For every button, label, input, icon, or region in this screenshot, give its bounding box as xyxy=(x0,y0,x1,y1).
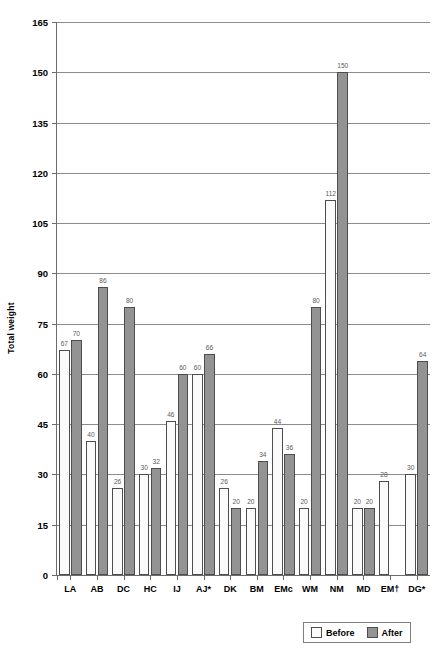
bar-value-label: 32 xyxy=(153,458,160,465)
bar-group: 28 xyxy=(377,22,404,575)
bar-group: 3064 xyxy=(403,22,430,575)
bar-value-label: 20 xyxy=(366,498,373,505)
legend-swatch-after-icon xyxy=(367,627,378,638)
y-tick-label: 105 xyxy=(32,218,48,229)
legend-item-before: Before xyxy=(311,627,355,638)
bar-after: 60 xyxy=(178,374,189,575)
x-tick-label: NM xyxy=(330,584,344,594)
bar-value-label: 150 xyxy=(337,62,348,69)
legend-label-before: Before xyxy=(326,628,355,638)
x-tick-label: BM xyxy=(250,584,264,594)
bar-after: 66 xyxy=(204,354,215,575)
bar-before: 30 xyxy=(139,474,150,575)
x-tick-label: AJ* xyxy=(196,584,211,594)
bar-group: 4660 xyxy=(164,22,191,575)
x-tick xyxy=(150,575,151,580)
x-tick xyxy=(283,575,284,580)
bar-value-label: 26 xyxy=(220,478,227,485)
x-tick-label: WM xyxy=(302,584,318,594)
bar-group: 2680 xyxy=(110,22,137,575)
bar-value-label: 20 xyxy=(247,498,254,505)
x-tick-label: MD xyxy=(356,584,370,594)
bar-after: 70 xyxy=(71,340,82,575)
y-axis-title: Total weight xyxy=(0,0,22,656)
bar-group: 3032 xyxy=(137,22,164,575)
bar-value-label: 26 xyxy=(114,478,121,485)
legend-item-after: After xyxy=(367,627,403,638)
bar-value-label: 46 xyxy=(167,411,174,418)
y-tick-label: 45 xyxy=(37,419,48,430)
bar-before: 112 xyxy=(325,200,336,575)
x-tick-label: LA xyxy=(64,584,76,594)
y-tick-label: 165 xyxy=(32,17,48,28)
x-tick-label: EM† xyxy=(381,584,400,594)
x-tick xyxy=(417,575,418,580)
bar-after: 20 xyxy=(364,508,375,575)
bar-group: 2620 xyxy=(217,22,244,575)
bar-group: 2080 xyxy=(297,22,324,575)
bar-value-label: 80 xyxy=(126,297,133,304)
bar-chart: Total weight 015304560759010512013515016… xyxy=(0,0,442,656)
bar-after: 64 xyxy=(417,361,428,575)
bar-value-label: 67 xyxy=(61,340,68,347)
bar-group: 2034 xyxy=(244,22,271,575)
bar-value-label: 64 xyxy=(419,351,426,358)
x-tick xyxy=(363,575,364,580)
y-tick-label: 90 xyxy=(37,268,48,279)
bar-after: 150 xyxy=(337,72,348,575)
x-tick-label: HC xyxy=(144,584,157,594)
bar-before: 44 xyxy=(272,428,283,575)
x-tick-label: DK xyxy=(224,584,237,594)
y-tick-label: 75 xyxy=(37,318,48,329)
bar-before: 67 xyxy=(59,350,70,575)
y-tick-label: 150 xyxy=(32,67,48,78)
x-tick xyxy=(70,575,71,580)
y-tick-label: 30 xyxy=(37,469,48,480)
bar-value-label: 20 xyxy=(354,498,361,505)
bar-after: 36 xyxy=(284,454,295,575)
bar-group: 6066 xyxy=(190,22,217,575)
x-tick xyxy=(257,575,258,580)
bar-after: 80 xyxy=(124,307,135,575)
bar-before: 28 xyxy=(379,481,390,575)
x-tick xyxy=(230,575,231,580)
x-tick-origin xyxy=(57,575,58,580)
x-tick xyxy=(390,575,391,580)
bar-value-label: 20 xyxy=(300,498,307,505)
bar-before: 26 xyxy=(112,488,123,575)
y-tick-label: 0 xyxy=(43,570,48,581)
bar-before: 20 xyxy=(352,508,363,575)
bar-before: 60 xyxy=(192,374,203,575)
x-tick-label: DG* xyxy=(408,584,425,594)
chart-legend: Before After xyxy=(303,622,411,643)
bar-after: 34 xyxy=(258,461,269,575)
bar-value-label: 86 xyxy=(99,277,106,284)
bar-value-label: 34 xyxy=(259,451,266,458)
x-tick xyxy=(177,575,178,580)
bar-value-label: 112 xyxy=(325,190,336,197)
x-tick xyxy=(310,575,311,580)
x-tick-label: EMc xyxy=(274,584,293,594)
x-tick xyxy=(97,575,98,580)
bar-before: 30 xyxy=(405,474,416,575)
legend-swatch-before-icon xyxy=(311,627,322,638)
bar-after: 86 xyxy=(98,287,109,575)
x-tick xyxy=(124,575,125,580)
bar-value-label: 60 xyxy=(179,364,186,371)
bar-before: 20 xyxy=(246,508,257,575)
y-tick-label: 15 xyxy=(37,519,48,530)
bar-before: 40 xyxy=(86,441,97,575)
bar-value-label: 20 xyxy=(232,498,239,505)
y-tick-label: 135 xyxy=(32,117,48,128)
x-tick-label: AB xyxy=(90,584,103,594)
y-tick-label: 120 xyxy=(32,167,48,178)
bar-group: 4086 xyxy=(84,22,111,575)
x-tick xyxy=(337,575,338,580)
bar-group: 4436 xyxy=(270,22,297,575)
bar-value-label: 80 xyxy=(312,297,319,304)
bar-value-label: 30 xyxy=(141,464,148,471)
bar-value-label: 44 xyxy=(274,418,281,425)
x-tick-label: IJ xyxy=(173,584,181,594)
bar-value-label: 30 xyxy=(407,464,414,471)
bar-value-label: 60 xyxy=(194,364,201,371)
